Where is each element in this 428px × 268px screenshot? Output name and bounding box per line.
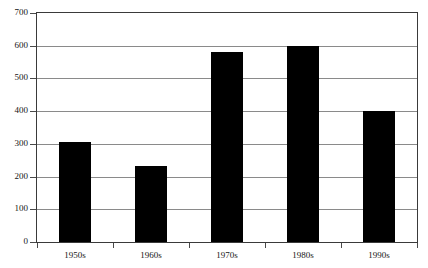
x-tick-label-1970s: 1970s xyxy=(192,250,262,260)
y-tick-label-300: 300 xyxy=(0,139,28,148)
gridline-600 xyxy=(37,46,417,47)
y-tick-label-200: 200 xyxy=(0,172,28,181)
y-tick-label-700: 700 xyxy=(0,8,28,17)
bar-1990s xyxy=(363,111,395,242)
x-tick-2 xyxy=(189,243,190,248)
bar-1950s xyxy=(59,142,91,242)
x-tick-3 xyxy=(265,243,266,248)
x-tick-label-1980s: 1980s xyxy=(268,250,338,260)
x-tick-label-1990s: 1990s xyxy=(344,250,414,260)
x-tick-5 xyxy=(417,243,418,248)
y-tick-label-0: 0 xyxy=(0,237,28,246)
y-tick-label-100: 100 xyxy=(0,204,28,213)
y-tick-label-600: 600 xyxy=(0,41,28,50)
y-tick-label-400: 400 xyxy=(0,106,28,115)
bar-chart: 0100200300400500600700 1950s1960s1970s19… xyxy=(0,0,428,268)
x-tick-label-1950s: 1950s xyxy=(40,250,110,260)
x-tick-4 xyxy=(341,243,342,248)
x-tick-0 xyxy=(37,243,38,248)
plot-area xyxy=(36,12,418,243)
x-tick-label-1960s: 1960s xyxy=(116,250,186,260)
x-tick-1 xyxy=(113,243,114,248)
bar-1980s xyxy=(287,46,319,242)
bar-1960s xyxy=(135,166,167,242)
bar-1970s xyxy=(211,52,243,242)
y-tick-label-500: 500 xyxy=(0,73,28,82)
